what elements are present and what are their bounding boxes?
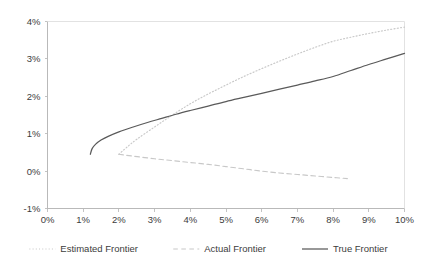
- x-tick-label: 5%: [219, 214, 233, 225]
- legend-label-true-frontier: True Frontier: [333, 243, 388, 254]
- x-tick-label: 0%: [41, 214, 55, 225]
- x-tick-label: 1%: [76, 214, 90, 225]
- x-tick-label: 2%: [112, 214, 126, 225]
- chart-container: -1%0%1%2%3%4% 0%1%2%3%4%5%6%7%8%9%10% Es…: [0, 0, 428, 270]
- data-series-group: [90, 27, 404, 178]
- plot-axes: [48, 22, 405, 209]
- axis-frame: [48, 22, 405, 209]
- y-tick-label: -1%: [24, 203, 41, 214]
- x-tick-label: 7%: [291, 214, 305, 225]
- y-tick-label: 2%: [27, 91, 41, 102]
- x-tick-label: 4%: [183, 214, 197, 225]
- legend-label-estimated-frontier: Estimated Frontier: [60, 243, 138, 254]
- x-tick-label: 6%: [255, 214, 269, 225]
- y-tick-label: 4%: [27, 16, 41, 27]
- x-axis-tick-labels: 0%1%2%3%4%5%6%7%8%9%10%: [41, 214, 415, 225]
- y-axis-tick-labels: -1%0%1%2%3%4%: [24, 16, 41, 214]
- frontier-line-chart: -1%0%1%2%3%4% 0%1%2%3%4%5%6%7%8%9%10% Es…: [0, 0, 428, 270]
- x-tick-label: 9%: [362, 214, 376, 225]
- y-tick-label: 3%: [27, 53, 41, 64]
- x-tick-label: 8%: [326, 214, 340, 225]
- legend-label-actual-frontier: Actual Frontier: [204, 243, 266, 254]
- y-tick-label: 0%: [27, 166, 41, 177]
- x-tick-label: 10%: [395, 214, 415, 225]
- chart-legend: Estimated FrontierActual FrontierTrue Fr…: [29, 243, 387, 254]
- series-line-actual-frontier: [119, 154, 347, 178]
- x-tick-label: 3%: [148, 214, 162, 225]
- axis-tick-marks: [45, 22, 405, 212]
- series-line-estimated-frontier: [119, 27, 405, 154]
- y-tick-label: 1%: [27, 128, 41, 139]
